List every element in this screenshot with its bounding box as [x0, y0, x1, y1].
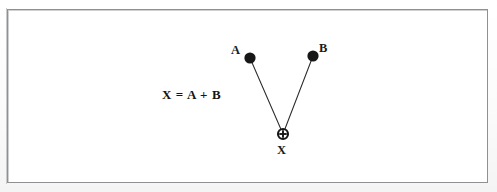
edge-group: [250, 56, 313, 134]
filled-circle-icon: [244, 52, 255, 63]
node-a: [244, 52, 255, 63]
node-label-b: B: [319, 42, 327, 55]
node-label-x: X: [277, 144, 286, 157]
edge-b-to-x: [283, 56, 313, 134]
node-b: [307, 50, 318, 61]
node-x: [278, 129, 288, 139]
figure-canvas: A B X X = A + B: [0, 0, 497, 192]
equation-text: X = A + B: [162, 87, 221, 103]
filled-circle-icon: [307, 50, 318, 61]
edge-a-to-x: [250, 58, 283, 134]
vector-addition-diagram: [0, 0, 497, 192]
node-label-a: A: [231, 44, 240, 57]
